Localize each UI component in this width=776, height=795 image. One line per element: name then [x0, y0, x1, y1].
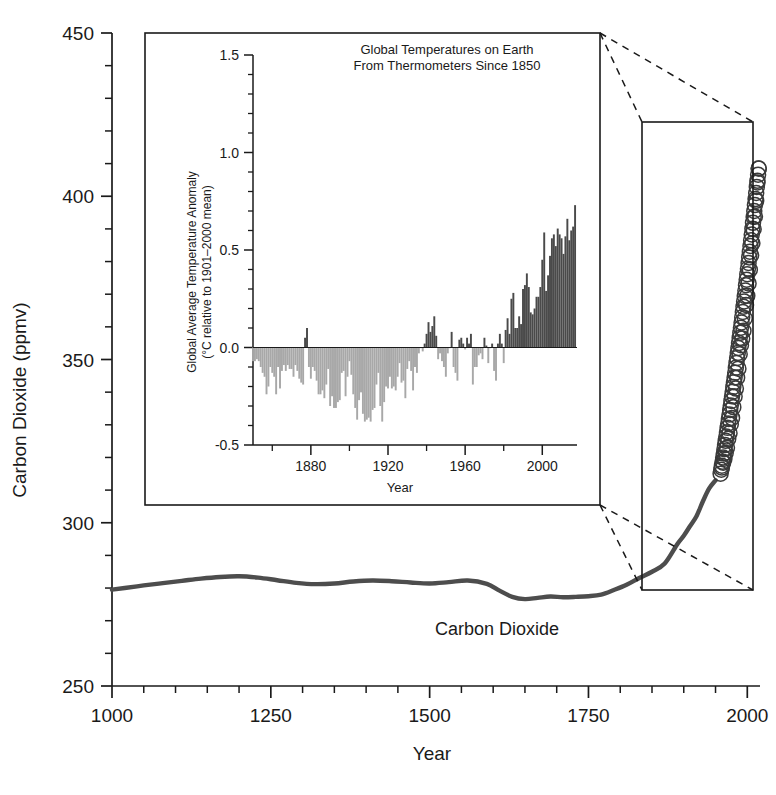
temperature-bar — [314, 348, 316, 371]
temperature-bar — [422, 348, 424, 352]
main-xtick-label: 1000 — [91, 705, 133, 726]
figure-canvas: 45040035030025010001250150017502000 1.51… — [0, 0, 776, 795]
temperature-bar — [267, 348, 269, 387]
temperature-bar — [287, 348, 289, 366]
temperature-bar — [445, 348, 447, 377]
temperature-bar — [551, 238, 553, 347]
temperature-bar — [549, 256, 551, 348]
temperature-bar — [273, 348, 275, 377]
temperature-bar — [524, 285, 526, 347]
main-xlabel: Year — [413, 743, 452, 764]
temperature-bar — [310, 348, 312, 379]
temperature-bar — [383, 348, 385, 403]
temperature-bar — [429, 332, 431, 348]
temperature-bar — [404, 348, 406, 399]
temperature-bar — [478, 348, 480, 356]
temperature-bar — [437, 348, 439, 360]
temperature-bar — [510, 299, 512, 348]
temperature-bar — [468, 344, 470, 348]
temperature-bar — [308, 348, 310, 368]
temperature-bar — [374, 348, 376, 408]
temperature-bar — [439, 348, 441, 354]
temperature-bar — [375, 348, 377, 385]
temperature-bar — [391, 348, 393, 389]
co2-curve-annotation: Carbon Dioxide — [435, 619, 559, 639]
temperature-bar — [505, 330, 507, 348]
temperature-bar — [275, 348, 277, 395]
inset-ylabel-line2: (°C relative to 1901–2000 mean) — [200, 185, 214, 359]
temperature-bar — [418, 348, 420, 354]
temperature-bar — [289, 348, 291, 369]
temperature-bar — [335, 348, 337, 408]
temperature-bar — [356, 348, 358, 420]
temperature-bar — [563, 254, 565, 348]
temperature-bar — [447, 348, 449, 354]
temperature-bar — [368, 348, 370, 418]
inset-ytick-label: 0.5 — [220, 242, 240, 258]
temperature-bar — [503, 348, 505, 364]
inset-ytick-label: 1.0 — [220, 145, 240, 161]
temperature-bar — [516, 328, 518, 348]
temperature-bar — [364, 348, 366, 422]
temperature-bar — [570, 231, 572, 348]
temperature-bar — [264, 348, 266, 377]
co2-temperature-figure: 45040035030025010001250150017502000 1.51… — [0, 0, 776, 795]
temperature-bar — [379, 348, 381, 407]
temperature-bar — [316, 348, 318, 381]
temperature-bar — [298, 348, 300, 379]
main-xtick-label: 1250 — [250, 705, 292, 726]
temperature-bar — [269, 348, 271, 368]
temperature-bar — [491, 344, 493, 348]
temperature-bar — [389, 348, 391, 377]
inset-xlabel: Year — [387, 480, 414, 495]
temperature-bar — [281, 348, 283, 371]
main-ytick-label: 400 — [62, 186, 94, 207]
temperature-bar — [455, 348, 457, 373]
temperature-bar — [512, 293, 514, 348]
temperature-bar — [358, 348, 360, 401]
temperature-bar — [453, 348, 455, 368]
temperature-bar — [458, 340, 460, 348]
temperature-bar — [547, 275, 549, 347]
temperature-bar — [443, 348, 445, 368]
temperature-bar — [362, 348, 364, 414]
temperature-bar — [532, 314, 534, 347]
temperature-bar — [416, 348, 418, 373]
temperature-bar — [262, 348, 264, 373]
temperature-bar — [350, 348, 352, 375]
temperature-bar — [254, 348, 256, 362]
inset-xtick-label: 1960 — [450, 458, 481, 474]
temperature-bar — [387, 348, 389, 389]
temperature-bar — [414, 348, 416, 368]
main-ytick-label: 300 — [62, 513, 94, 534]
temperature-bar — [354, 348, 356, 408]
inset-ytick-label: 1.5 — [220, 47, 240, 63]
temperature-bar — [561, 238, 563, 347]
temperature-bar — [283, 348, 285, 366]
temperature-bar — [397, 348, 399, 377]
temperature-bar — [566, 219, 568, 348]
main-xtick-label: 2000 — [726, 705, 768, 726]
temperature-bar — [424, 344, 426, 348]
temperature-bar — [568, 240, 570, 347]
temperature-bar — [318, 348, 320, 395]
temperature-bar — [293, 348, 295, 377]
temperature-bar — [348, 348, 350, 362]
temperature-bar — [462, 344, 464, 348]
temperature-bar — [252, 348, 254, 362]
temperature-bar — [347, 348, 349, 377]
temperature-bar — [258, 348, 260, 362]
temperature-bar — [320, 348, 322, 395]
temperature-bar — [518, 316, 520, 347]
temperature-bar — [553, 234, 555, 347]
temperature-bar — [370, 348, 372, 422]
temperature-bar — [402, 348, 404, 381]
temperature-bar — [522, 289, 524, 348]
temperature-bar — [300, 348, 302, 383]
temperature-bar — [395, 348, 397, 391]
inset-title-line1: Global Temperatures on Earth — [360, 42, 533, 57]
temperature-bar — [337, 348, 339, 403]
temperature-bar — [572, 227, 574, 348]
temperature-bar — [285, 348, 287, 371]
main-ytick-label: 350 — [62, 350, 94, 371]
